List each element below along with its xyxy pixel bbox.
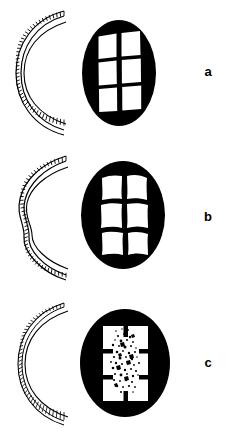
panel-c: c: [0, 291, 234, 437]
panel-label-b: b: [196, 205, 220, 229]
panel-label-a: a: [196, 60, 220, 84]
inner-arc-line-a: [24, 22, 66, 124]
outer-band-b: [19, 156, 66, 280]
outer-band-a: [16, 11, 64, 135]
disc-diagram-a: [78, 0, 178, 146]
disc-body-b: [81, 161, 165, 269]
panel-a: a: [0, 0, 234, 146]
disc-open-region-c: [102, 325, 150, 403]
disc-body-a: [82, 20, 156, 126]
band-hatching-a: [16, 11, 64, 126]
inner-arc-line-b: [26, 167, 68, 269]
figure-container: a: [0, 0, 234, 437]
panel-b: b: [0, 145, 234, 291]
disc-diagram-b: [78, 145, 178, 291]
arc-diagram-c: [0, 291, 80, 437]
arc-diagram-b: [0, 145, 80, 291]
panel-label-c: c: [196, 351, 220, 375]
arc-diagram-a: [0, 0, 80, 146]
disc-diagram-c: [78, 291, 178, 437]
